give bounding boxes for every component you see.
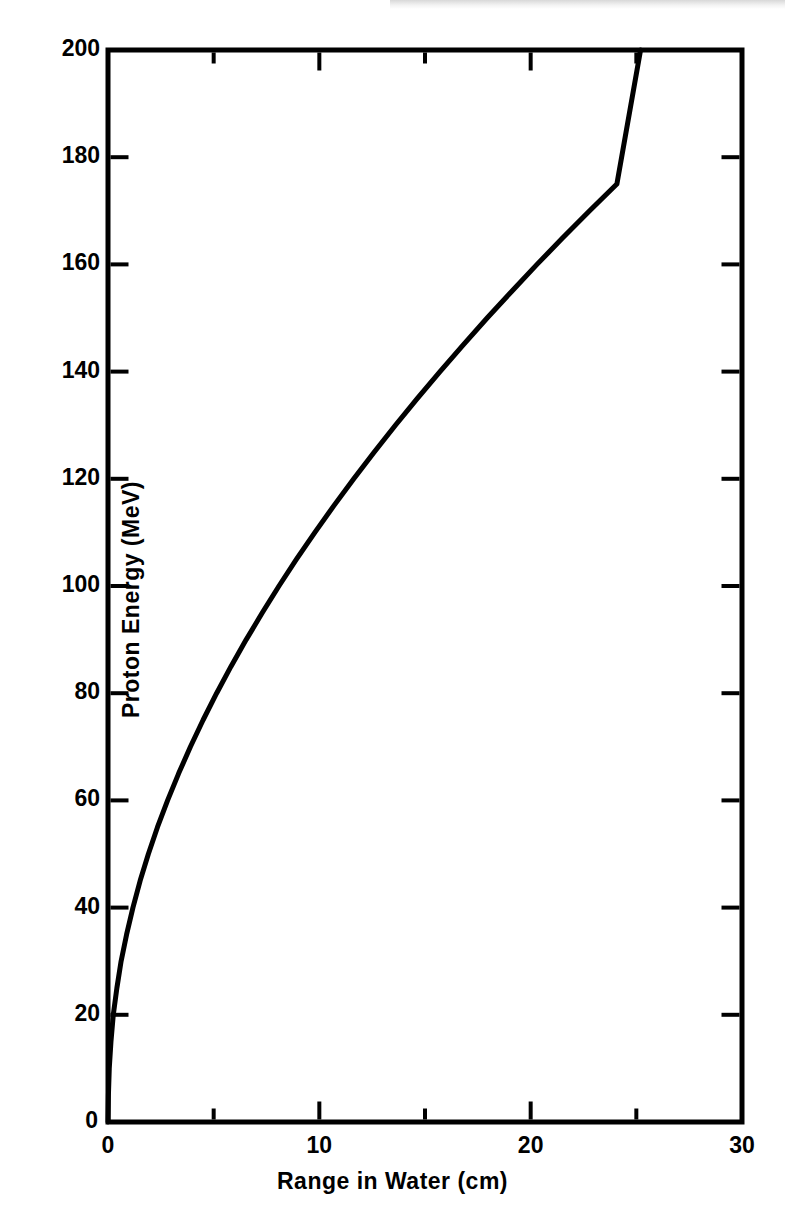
y-tick-label-80: 80 <box>30 678 100 705</box>
plot-border <box>108 50 742 1122</box>
curve-series-0 <box>108 50 641 1122</box>
x-tick-label-30: 30 <box>712 1132 772 1159</box>
plot-frame <box>108 50 742 1122</box>
y-tick-label-160: 160 <box>30 249 100 276</box>
y-tick-label-100: 100 <box>30 571 100 598</box>
y-tick-label-20: 20 <box>30 1000 100 1027</box>
x-tick-label-10: 10 <box>289 1132 349 1159</box>
y-tick-label-0: 0 <box>68 1107 98 1134</box>
y-tick-label-120: 120 <box>30 464 100 491</box>
y-tick-label-40: 40 <box>30 893 100 920</box>
figure-page: 020406080100120140160180200 0102030 Rang… <box>0 0 785 1214</box>
y-tick-label-180: 180 <box>30 142 100 169</box>
x-tick-label-20: 20 <box>501 1132 561 1159</box>
data-curve <box>108 50 641 1122</box>
y-tick-label-140: 140 <box>30 357 100 384</box>
x-tick-label-0: 0 <box>78 1132 138 1159</box>
x-axis-title: Range in Water (cm) <box>0 1168 785 1195</box>
range-energy-chart: 020406080100120140160180200 0102030 Rang… <box>0 0 785 1214</box>
axis-ticks <box>111 53 740 1120</box>
y-tick-label-60: 60 <box>30 785 100 812</box>
y-tick-label-200: 200 <box>30 35 100 62</box>
y-axis-title: Proton Energy (MeV) <box>118 207 145 992</box>
